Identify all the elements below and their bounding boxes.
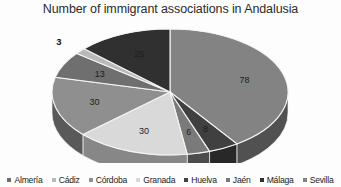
pie-slice-value-label: 3 xyxy=(56,36,61,47)
legend-swatch-icon xyxy=(7,178,11,182)
legend-swatch-icon xyxy=(226,178,230,182)
legend-swatch-icon xyxy=(89,178,93,182)
pie-chart-svg: 7886303013325 xyxy=(0,18,341,163)
legend-item-cdiz[interactable]: Cádiz xyxy=(52,175,80,185)
pie-chart-figure: Number of immigrant associations in Anda… xyxy=(0,0,341,187)
legend-item-label: Córdoba xyxy=(96,175,128,185)
legend-item-label: Cádiz xyxy=(59,175,80,185)
legend-swatch-icon xyxy=(260,178,264,182)
pie-slice-value-label: 78 xyxy=(239,75,249,85)
legend-item-crdoba[interactable]: Córdoba xyxy=(89,175,128,185)
chart-legend: AlmeríaCádizCórdobaGranadaHuelvaJaénMála… xyxy=(0,175,341,185)
legend-item-label: Sevilla xyxy=(310,175,334,185)
pie-3d-tops xyxy=(52,29,288,155)
legend-item-label: Málaga xyxy=(267,175,294,185)
legend-item-almera[interactable]: Almería xyxy=(7,175,42,185)
legend-item-label: Jaén xyxy=(233,175,251,185)
pie-chart-plot-area: 7886303013325 xyxy=(0,18,341,163)
legend-item-label: Huelva xyxy=(191,175,217,185)
legend-item-label: Almería xyxy=(14,175,42,185)
pie-slice-value-label: 13 xyxy=(95,69,105,79)
legend-item-label: Granada xyxy=(143,175,175,185)
legend-item-sevilla[interactable]: Sevilla xyxy=(303,175,334,185)
legend-swatch-icon xyxy=(184,178,188,182)
pie-slice-value-label: 25 xyxy=(134,49,144,59)
legend-swatch-icon xyxy=(303,178,307,182)
legend-swatch-icon xyxy=(136,178,140,182)
pie-slice-value-label: 30 xyxy=(139,126,149,136)
legend-item-jan[interactable]: Jaén xyxy=(226,175,251,185)
chart-title: Number of immigrant associations in Anda… xyxy=(0,2,341,16)
legend-swatch-icon xyxy=(52,178,56,182)
legend-item-mlaga[interactable]: Málaga xyxy=(260,175,294,185)
legend-item-granada[interactable]: Granada xyxy=(136,175,175,185)
pie-slice-value-label: 8 xyxy=(203,124,208,134)
pie-slice-value-label: 30 xyxy=(90,97,100,107)
legend-item-huelva[interactable]: Huelva xyxy=(184,175,217,185)
pie-slice-value-label: 6 xyxy=(186,127,191,137)
